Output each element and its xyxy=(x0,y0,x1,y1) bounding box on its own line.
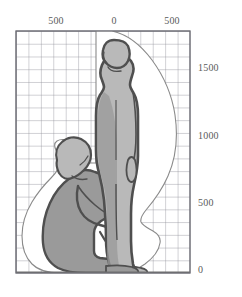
diagram-canvas xyxy=(0,0,242,297)
anthropometric-figure: 500 0 500 1500 1000 500 0 xyxy=(0,0,242,297)
